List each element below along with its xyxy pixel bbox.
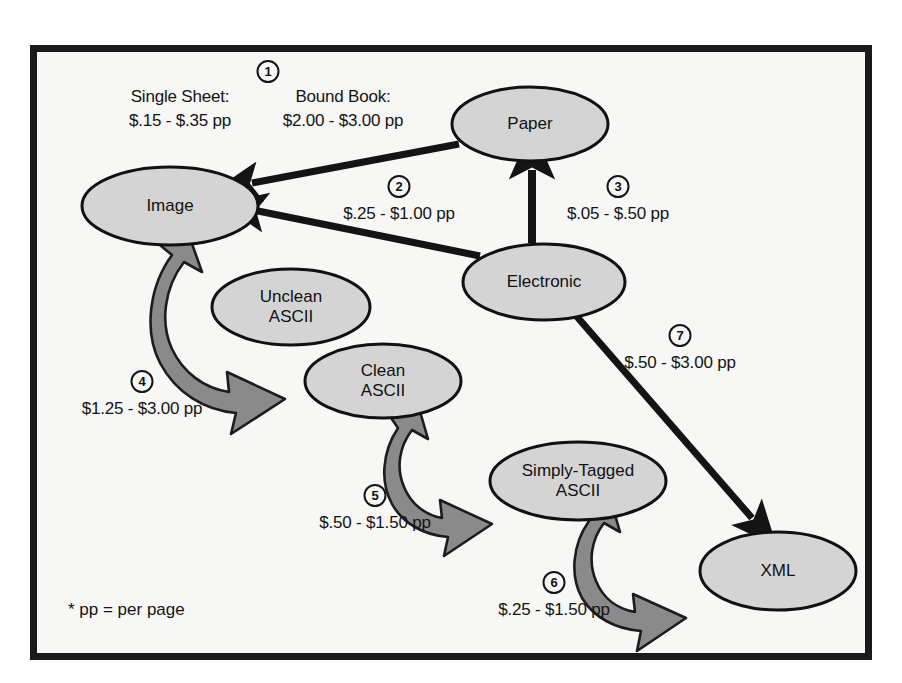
edge-number-5: 5 [364,484,387,507]
edge-6-simply-tagged-to-xml [574,501,686,651]
cost-label-1-single-sheet-title: Single Sheet: [131,86,230,107]
node-paper-shape[interactable] [452,87,608,161]
cost-label-6: $.25 - $1.50 pp [498,599,609,620]
cost-label-7: $.50 - $3.00 pp [624,352,735,373]
edge-number-6: 6 [543,571,566,594]
node-simply-tagged-ascii-shape[interactable] [490,442,666,520]
edge-5-clean-ascii-to-simply-tagged [384,408,492,556]
footnote-per-page: * pp = per page [68,600,185,620]
cost-label-2: $.25 - $1.00 pp [343,203,454,224]
edge-5-ribbon [384,408,492,556]
edge-number-2: 2 [388,175,411,198]
edge-number-4: 4 [131,370,154,393]
node-image-shape[interactable] [82,167,258,245]
edge-number-3: 3 [607,175,630,198]
edge-1-line [252,144,459,183]
cost-label-1-bound-book-value: $2.00 - $3.00 pp [283,110,404,131]
cost-label-4: $1.25 - $3.00 pp [82,398,203,419]
node-unclean-ascii-shape[interactable] [212,269,370,345]
cost-label-1-single-sheet-value: $.15 - $.35 pp [129,110,231,131]
cost-label-1-bound-book-title: Bound Book: [295,86,390,107]
edge-number-1: 1 [257,60,280,83]
edge-number-7: 7 [669,324,692,347]
edge-1-paper-to-image [252,144,459,183]
diagram-page: Paper Image Electronic Unclean ASCII Cle… [0,0,902,683]
edge-6-ribbon [574,501,686,651]
cost-label-5: $.50 - $1.50 pp [319,512,430,533]
node-electronic-shape[interactable] [463,244,625,320]
node-xml-shape[interactable] [700,532,856,610]
cost-label-3: $.05 - $.50 pp [567,203,669,224]
node-clean-ascii-shape[interactable] [305,344,461,418]
